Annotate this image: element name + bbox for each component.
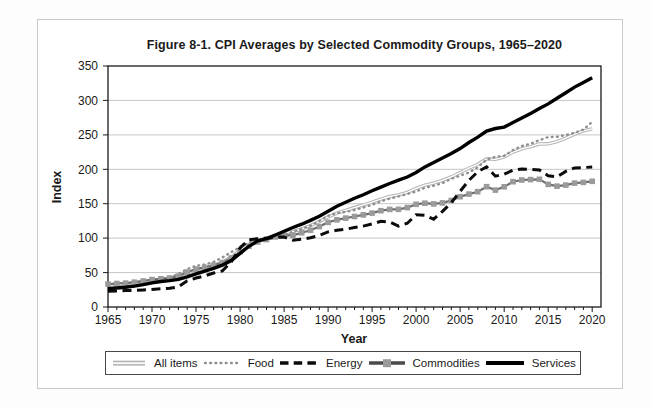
svg-text:2020: 2020: [579, 313, 606, 327]
svg-text:1965: 1965: [95, 313, 122, 327]
svg-text:50: 50: [85, 266, 99, 280]
chart-plot-area: 0501001502002503003501965197019751980198…: [0, 0, 653, 408]
energy-dashed-line-icon: [278, 357, 320, 369]
svg-text:150: 150: [78, 197, 98, 211]
services-line-icon: [484, 357, 526, 369]
chart-legend: All items Food Energy Commodities S: [105, 351, 581, 375]
legend-label: Energy: [326, 357, 362, 369]
commodities-line-icon: [367, 357, 407, 369]
legend-item-all-items: All items: [110, 357, 197, 369]
legend-item-commodities: Commodities: [367, 357, 480, 369]
svg-text:1990: 1990: [315, 313, 342, 327]
svg-text:300: 300: [78, 94, 98, 108]
legend-item-food: Food: [202, 357, 274, 369]
legend-label: Food: [248, 357, 274, 369]
svg-text:1985: 1985: [271, 313, 298, 327]
svg-text:1980: 1980: [227, 313, 254, 327]
legend-label: Commodities: [413, 357, 480, 369]
svg-text:100: 100: [78, 231, 98, 245]
svg-text:2010: 2010: [491, 313, 518, 327]
svg-text:1970: 1970: [139, 313, 166, 327]
legend-label: Services: [532, 357, 576, 369]
x-axis-title: Year: [341, 332, 367, 346]
svg-text:1975: 1975: [183, 313, 210, 327]
food-dotted-line-icon: [202, 357, 242, 369]
legend-item-energy: Energy: [278, 357, 362, 369]
legend-label: All items: [154, 357, 197, 369]
figure-page: Figure 8-1. CPI Averages by Selected Com…: [0, 0, 653, 408]
all-items-line-icon: [110, 357, 148, 369]
svg-text:350: 350: [78, 59, 98, 73]
legend-item-services: Services: [484, 357, 576, 369]
svg-text:2015: 2015: [535, 313, 562, 327]
svg-text:250: 250: [78, 128, 98, 142]
y-axis-title: Index: [50, 171, 64, 204]
svg-text:1995: 1995: [359, 313, 386, 327]
svg-text:2000: 2000: [403, 313, 430, 327]
svg-text:200: 200: [78, 163, 98, 177]
svg-text:2005: 2005: [447, 313, 474, 327]
